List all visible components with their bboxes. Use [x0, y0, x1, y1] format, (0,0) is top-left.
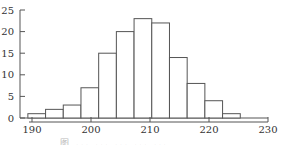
y-tick-label: 25: [1, 5, 14, 16]
y-tick-label: 10: [1, 69, 14, 80]
histogram-bar: [46, 109, 64, 118]
x-tick-label: 210: [140, 124, 159, 135]
y-tick-label: 15: [1, 48, 14, 59]
x-tick-label: 230: [258, 124, 277, 135]
histogram-bar: [28, 114, 46, 118]
histogram-bar: [63, 105, 81, 118]
histogram-bar: [223, 114, 241, 118]
x-tick-label: 200: [81, 124, 100, 135]
x-axis: 190200210220230: [22, 117, 277, 135]
histogram-bar: [134, 19, 152, 118]
histogram-bar: [99, 53, 117, 118]
histogram-bar: [169, 58, 187, 118]
y-tick-label: 0: [8, 113, 14, 124]
histogram-chart: 0510152025 190200210220230: [0, 0, 285, 135]
x-tick-label: 220: [199, 124, 218, 135]
y-tick-label: 5: [8, 91, 14, 102]
histogram-bar: [152, 23, 170, 118]
x-tick-label: 190: [22, 124, 41, 135]
histogram-bar: [205, 101, 223, 118]
histogram-bar: [81, 88, 99, 118]
y-tick-label: 20: [1, 26, 14, 37]
histogram-bars: [28, 19, 240, 118]
histogram-bar: [187, 83, 205, 118]
figure-caption: 图 ... ... ... ... ...: [60, 136, 168, 145]
histogram-bar: [116, 32, 134, 118]
